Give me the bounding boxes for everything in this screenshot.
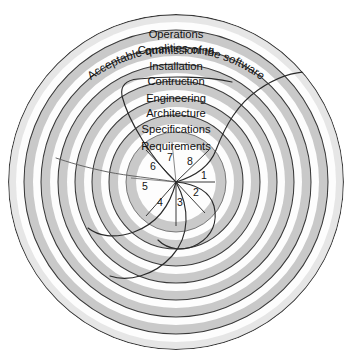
sector-number-5: 5 [142, 180, 148, 192]
sector-number-8: 8 [187, 155, 193, 167]
sector-number-4: 4 [157, 196, 163, 208]
ring-label-specifications: Specifications [141, 123, 210, 135]
ring-label-operations: Operations [149, 28, 204, 40]
ring-label-contruction: Contruction [147, 75, 204, 87]
sector-number-2: 2 [193, 186, 199, 198]
ring-label-architecture: Architecture [146, 107, 206, 119]
sector-number-6: 6 [150, 160, 156, 172]
diagram-canvas: Acceptable qualities of the software Ope… [0, 0, 348, 351]
sector-number-7: 7 [167, 151, 173, 163]
ring-label-commissioning: Commissioning [138, 44, 214, 56]
sector-number-1: 1 [201, 169, 207, 181]
ring-label-requirements: Requirements [141, 140, 211, 152]
spiral-model-diagram: Acceptable qualities of the software Ope… [0, 0, 348, 351]
ring-label-engineering: Engineering [146, 92, 206, 104]
ring-label-installation: Installation [149, 60, 203, 72]
sector-number-3: 3 [177, 196, 183, 208]
